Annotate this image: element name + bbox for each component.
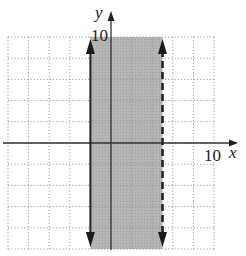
x-axis-label: x [229,144,237,161]
inequality-graph [0,0,246,256]
x-tick-label: 10 [204,147,221,164]
y-axis-label: y [95,4,103,21]
y-tick-label: 10 [91,27,108,44]
